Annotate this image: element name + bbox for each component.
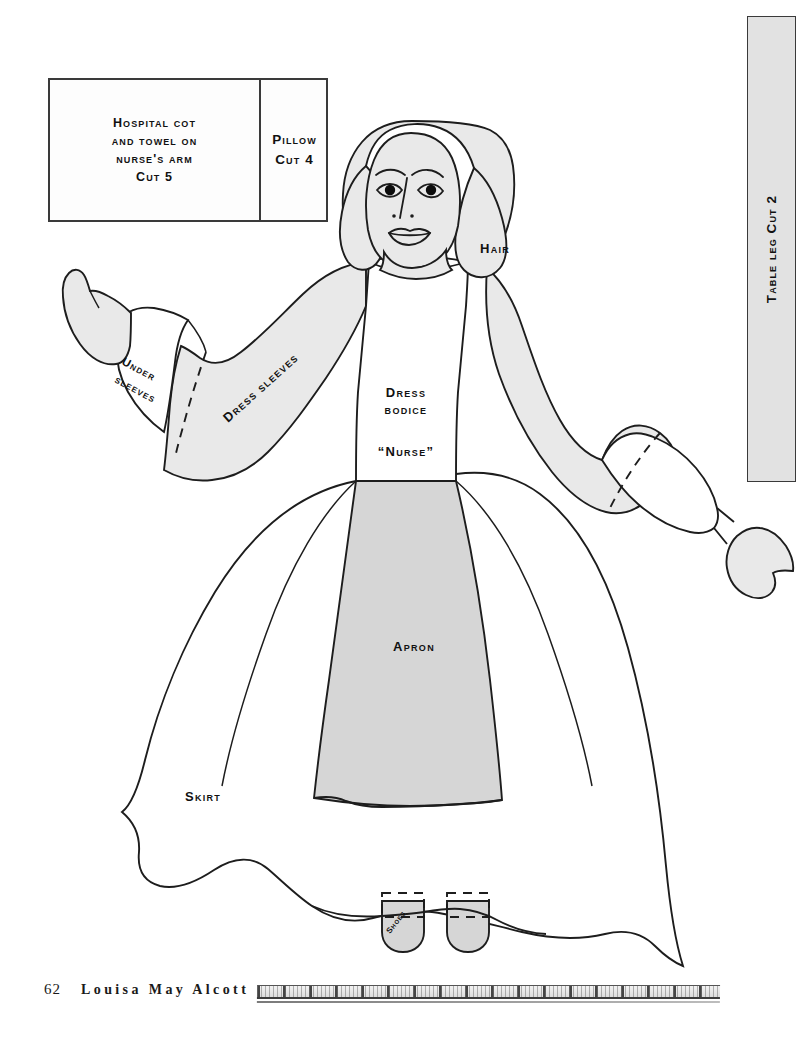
- dress-bodice-label-line1: Dress: [386, 385, 426, 400]
- right-cuff: [602, 433, 718, 533]
- under-sleeve-overlap-edge: [188, 320, 206, 352]
- nurse-doll-figure: Hair Under sleeves Dress sleeves Dress b…: [0, 0, 803, 1051]
- nostril-right: [410, 214, 414, 218]
- dress-bodice-label-line2: bodice: [385, 402, 428, 417]
- nurse-label: “Nurse”: [378, 444, 435, 459]
- eye-left-pupil: [385, 185, 395, 195]
- left-dress-sleeve: [164, 262, 366, 481]
- eye-right-pupil: [426, 185, 436, 195]
- face-shape: [366, 133, 460, 268]
- hair-label: Hair: [480, 241, 510, 256]
- page-canvas: Hospital cot and towel on nurse's arm Cu…: [0, 0, 803, 1051]
- page-number: 62: [44, 981, 61, 998]
- right-hand: [726, 528, 793, 598]
- footer-decorative-rule: [257, 985, 720, 999]
- nostril-left: [392, 214, 396, 218]
- left-hand: [63, 270, 131, 365]
- running-head: Louisa May Alcott: [81, 982, 249, 998]
- apron-label: Apron: [393, 639, 435, 654]
- skirt-label: Skirt: [185, 789, 221, 804]
- page-footer: 62 Louisa May Alcott: [44, 981, 249, 998]
